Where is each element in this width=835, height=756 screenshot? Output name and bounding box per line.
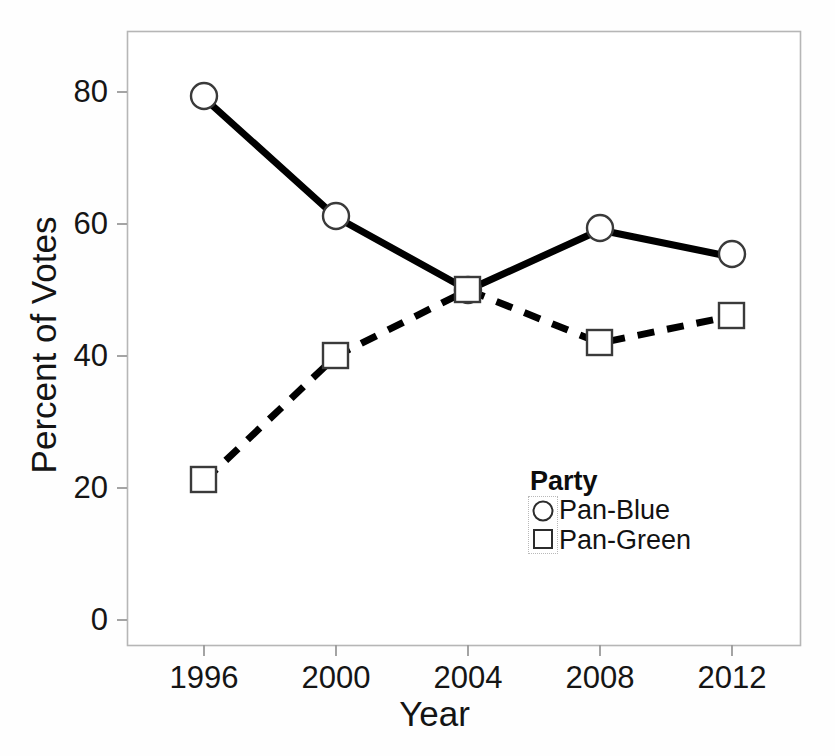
legend-key-box [528,496,558,554]
open-circle-icon [531,499,555,523]
data-point-pan-green-1996 [191,467,216,492]
y-axis-ticks [117,92,127,620]
chart-figure: 80 60 40 20 0 1996 2000 2004 2008 2012 P… [0,0,835,756]
legend-labels: Pan-Blue Pan-Green [559,496,691,554]
legend-label-pan-blue: Pan-Blue [559,496,691,524]
legend: Party Pan-Blue Pan-Green [528,468,718,554]
legend-label-pan-green: Pan-Green [559,526,691,554]
x-tick-label-2008: 2008 [566,660,635,696]
open-square-icon [531,527,555,551]
data-point-pan-green-2004 [455,277,480,302]
legend-marker-pan-blue [530,498,556,524]
legend-body: Pan-Blue Pan-Green [528,496,718,554]
x-axis-ticks [204,645,732,656]
data-point-pan-green-2012 [719,303,744,328]
data-point-pan-green-2008 [587,330,612,355]
y-tick-label-20: 20 [46,470,108,506]
legend-marker-pan-green [530,526,556,552]
data-point-pan-blue-2008 [587,215,613,241]
x-tick-label-2004: 2004 [434,660,503,696]
data-point-pan-blue-2000 [323,203,349,229]
legend-title: Party [530,468,718,495]
y-tick-label-80: 80 [46,74,108,110]
data-point-pan-blue-2012 [719,241,745,267]
x-tick-label-1996: 1996 [170,660,239,696]
x-axis-title: Year [0,694,835,734]
line-chart-canvas [0,0,835,756]
y-tick-label-60: 60 [46,206,108,242]
x-tick-label-2012: 2012 [698,660,767,696]
y-tick-label-0: 0 [46,602,108,638]
y-tick-label-40: 40 [46,338,108,374]
data-point-pan-blue-1996 [191,83,217,109]
data-point-pan-green-2000 [323,343,348,368]
x-tick-label-2000: 2000 [302,660,371,696]
